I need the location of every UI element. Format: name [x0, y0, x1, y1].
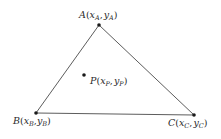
interior-point-p — [82, 73, 86, 77]
label-c: C(xC,yC) — [168, 117, 207, 130]
label-p: P(xP,yP) — [89, 75, 127, 88]
edge-ac — [99, 25, 194, 115]
vertex-a-point — [97, 23, 101, 27]
edge-bc — [36, 113, 194, 115]
edge-ab — [36, 25, 99, 113]
triangle-diagram: A(xA,yA) B(xB,yB) C(xC,yC) P(xP,yP) — [0, 0, 221, 139]
label-a: A(xA,yA) — [78, 9, 117, 22]
label-b: B(xB,yB) — [12, 115, 51, 128]
